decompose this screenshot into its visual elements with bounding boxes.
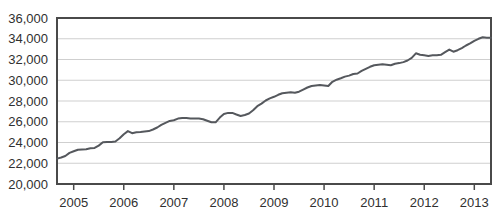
- x-axis-tick-label: 2011: [360, 195, 388, 210]
- line-chart-figure: 20,00022,00024,00026,00028,00030,00032,0…: [0, 0, 504, 220]
- y-axis-tick-label: 32,000: [8, 52, 48, 67]
- x-axis-tick-label: 2006: [109, 195, 138, 210]
- y-axis-tick-label: 30,000: [8, 73, 48, 88]
- y-axis-tick-label: 22,000: [8, 156, 48, 171]
- line-chart: 20,00022,00024,00026,00028,00030,00032,0…: [0, 0, 504, 220]
- y-axis-tick-label: 34,000: [8, 31, 48, 46]
- x-axis-tick-label: 2009: [260, 195, 289, 210]
- x-axis-tick-label: 2007: [159, 195, 188, 210]
- data-line: [57, 37, 491, 158]
- y-axis-tick-label: 36,000: [8, 11, 48, 26]
- x-axis-tick-label: 2012: [410, 195, 439, 210]
- x-axis-tick-label: 2013: [460, 195, 489, 210]
- y-axis-tick-label: 26,000: [8, 114, 48, 129]
- x-axis-tick-label: 2005: [59, 195, 88, 210]
- y-axis-tick-label: 28,000: [8, 94, 48, 109]
- x-axis-tick-label: 2008: [209, 195, 238, 210]
- y-axis-tick-label: 20,000: [8, 177, 48, 192]
- x-axis-tick-label: 2010: [310, 195, 339, 210]
- y-axis-tick-label: 24,000: [8, 135, 48, 150]
